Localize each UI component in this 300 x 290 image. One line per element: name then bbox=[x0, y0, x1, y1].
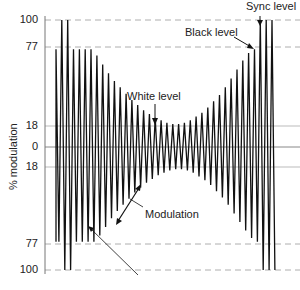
white-level-label: White level bbox=[127, 90, 181, 102]
sync-arrowhead-icon bbox=[257, 20, 263, 26]
tick-neg100: 100 bbox=[2, 263, 38, 275]
carrier-wave bbox=[56, 20, 275, 270]
annotation-arrows bbox=[88, 16, 263, 275]
modulation-label: Modulation bbox=[145, 208, 199, 220]
black-arrowhead-icon bbox=[247, 43, 254, 49]
tick-100: 100 bbox=[2, 13, 38, 25]
y-axis-label: % modulation bbox=[7, 123, 19, 190]
modulation-leader bbox=[130, 199, 143, 207]
modulation-diagram bbox=[0, 0, 300, 290]
sync-level-label: Sync level bbox=[246, 0, 296, 12]
envelope-leader bbox=[90, 228, 138, 275]
black-level-label: Black level bbox=[185, 26, 238, 38]
white-arrowhead-icon bbox=[152, 118, 158, 125]
tick-neg77: 77 bbox=[2, 237, 38, 249]
tick-77: 77 bbox=[2, 40, 38, 52]
mod-arrowhead-top-icon bbox=[135, 184, 141, 191]
